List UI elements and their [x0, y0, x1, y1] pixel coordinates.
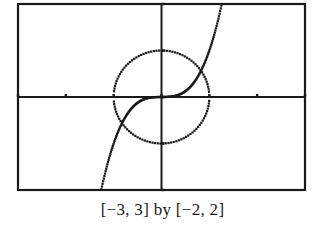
- window-caption: [−3, 3] by [−2, 2]: [0, 200, 325, 220]
- calculator-graph: [0, 0, 325, 200]
